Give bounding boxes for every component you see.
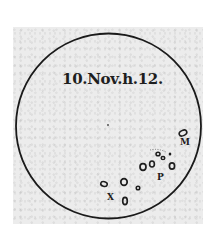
observation-date-caption: 10.Nov.h.12. bbox=[62, 70, 163, 88]
sunspot-p1 bbox=[140, 164, 146, 171]
disk-center-dot bbox=[107, 124, 109, 126]
sunspot-m bbox=[178, 129, 187, 137]
spot-label-x: X bbox=[107, 192, 114, 202]
sunspot-p3 bbox=[156, 152, 160, 156]
sunspot-x1 bbox=[100, 181, 108, 187]
sunspot-x3 bbox=[136, 186, 140, 190]
sunspot-p6 bbox=[169, 163, 174, 169]
sunspot-p2 bbox=[150, 161, 155, 167]
spot-label-p: P bbox=[157, 172, 164, 182]
solar-disk bbox=[16, 34, 201, 219]
sunspot-x4 bbox=[123, 197, 128, 204]
spot-label-m: M bbox=[180, 137, 190, 147]
sunspot-x2 bbox=[121, 179, 127, 186]
sunspot-drawing bbox=[0, 0, 221, 242]
sunspot-p4 bbox=[161, 156, 165, 159]
sunspot-p5 bbox=[169, 152, 172, 155]
